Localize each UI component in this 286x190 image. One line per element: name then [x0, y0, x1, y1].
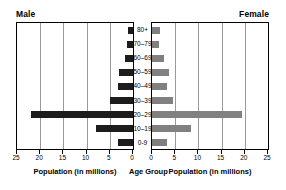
bar-row	[152, 65, 268, 79]
right-axis-caption: Population (in millions)	[151, 167, 269, 176]
bar-female-09	[152, 139, 167, 146]
bar-row	[152, 79, 268, 93]
bar-female-6069	[152, 55, 164, 62]
bar-male-80+	[128, 27, 133, 34]
bar-male-2029	[31, 111, 133, 118]
bar-row	[152, 37, 268, 51]
axis-tick-label: 0	[130, 154, 134, 161]
bar-male-09	[118, 139, 133, 146]
age-group-label: 40–49	[134, 79, 151, 93]
bar-row	[152, 135, 268, 149]
female-bar-rows	[152, 23, 268, 149]
age-group-label: 80+	[134, 22, 151, 36]
female-header-label: Female	[239, 9, 269, 19]
bar-row	[152, 23, 268, 37]
age-group-label: 50–59	[134, 65, 151, 79]
axis-tick-label: 5	[172, 154, 176, 161]
age-group-label: 70–79	[134, 36, 151, 50]
axis-tick-label: 15	[59, 154, 66, 161]
bar-row	[152, 51, 268, 65]
male-header-label: Male	[16, 9, 35, 19]
axis-tick-label: 10	[82, 154, 89, 161]
age-group-label: 20–29	[134, 107, 151, 121]
male-bar-rows	[17, 23, 133, 149]
bar-row	[152, 107, 268, 121]
axis-tick-label: 5	[107, 154, 111, 161]
bar-row	[17, 135, 133, 149]
bar-female-3039	[152, 97, 173, 104]
bar-male-3039	[110, 97, 133, 104]
male-plot-panel	[16, 22, 134, 150]
left-axis-caption: Population (in millions)	[16, 167, 134, 176]
bar-female-80+	[152, 27, 160, 34]
bar-female-2029	[152, 111, 242, 118]
age-group-label: 60–69	[134, 50, 151, 64]
axis-tick-label: 25	[263, 154, 270, 161]
age-group-label: 0-9	[134, 136, 151, 150]
bar-female-5059	[152, 69, 169, 76]
bar-male-1019	[96, 125, 133, 132]
bar-female-7079	[152, 41, 159, 48]
axis-tick-label: 10	[194, 154, 201, 161]
bar-row	[17, 107, 133, 121]
bar-male-7079	[127, 41, 133, 48]
bar-row	[17, 23, 133, 37]
age-group-label: 30–39	[134, 93, 151, 107]
left-x-axis: 2520151050	[16, 150, 134, 161]
bar-female-4049	[152, 83, 167, 90]
bar-male-5059	[119, 69, 133, 76]
bar-row	[17, 93, 133, 107]
population-pyramid-chart: Male Female 80+70–7960–6950–5940–4930–39…	[0, 0, 286, 190]
age-group-axis: 80+70–7960–6950–5940–4930–3920–2910–190-…	[134, 22, 151, 150]
axis-tick-label: 25	[12, 154, 19, 161]
bar-row	[17, 121, 133, 135]
axis-tick-label: 0	[149, 154, 153, 161]
bar-row	[152, 121, 268, 135]
bar-row	[152, 93, 268, 107]
axis-tick-label: 20	[36, 154, 43, 161]
bar-male-6069	[125, 55, 133, 62]
bar-row	[17, 51, 133, 65]
right-x-axis: 0510152025	[151, 150, 269, 161]
age-group-label: 10–19	[134, 122, 151, 136]
bar-female-1019	[152, 125, 191, 132]
bar-row	[17, 79, 133, 93]
axis-tick-label: 20	[240, 154, 247, 161]
bar-male-4049	[118, 83, 133, 90]
bar-row	[17, 65, 133, 79]
bar-row	[17, 37, 133, 51]
female-plot-panel	[151, 22, 269, 150]
axis-tick-label: 15	[217, 154, 224, 161]
